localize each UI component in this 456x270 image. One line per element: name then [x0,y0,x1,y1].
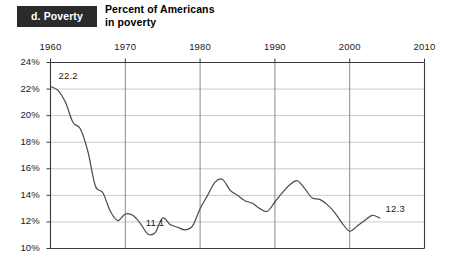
y-tick-label-24: 24% [8,56,40,67]
chart-plot-area: 196019701980199020002010 10%12%14%16%18%… [0,0,456,270]
y-tick-label-14: 14% [8,189,40,200]
x-tick-label-1990: 1990 [255,41,295,52]
x-tick-label-2010: 2010 [405,41,445,52]
x-tick-label-1970: 1970 [105,41,145,52]
chart-page: d. Poverty Percent of Americans in pover… [0,0,456,270]
annotation-22.2: 22.2 [59,70,78,81]
y-tick-label-16: 16% [8,162,40,173]
y-tick-label-18: 18% [8,136,40,147]
y-tick-label-10: 10% [8,242,40,253]
y-tick-label-20: 20% [8,109,40,120]
x-tick-label-1980: 1980 [180,41,220,52]
x-tick-label-1960: 1960 [31,41,71,52]
y-tick-label-12: 12% [8,215,40,226]
series-line-0 [51,86,380,234]
y-tick-label-22: 22% [8,83,40,94]
annotation-11.1: 11.1 [146,217,165,228]
x-tick-label-2000: 2000 [330,41,370,52]
annotation-12.3: 12.3 [386,203,405,214]
